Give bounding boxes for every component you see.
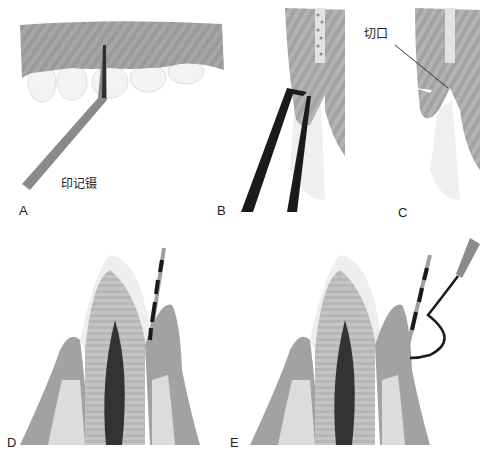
panel-letter-a: A	[19, 204, 28, 217]
tooth-probe-cross-section-d	[0, 230, 245, 464]
panel-letter-c: C	[398, 206, 407, 219]
annotation-marking-forceps: 印记镊	[61, 178, 97, 190]
panel-d: D	[0, 230, 245, 464]
periodontal-probe	[408, 255, 430, 345]
panel-c: 切口 C	[360, 0, 489, 225]
panel-letter-d: D	[7, 436, 16, 449]
tooth-root	[430, 100, 460, 200]
panel-letter-b: B	[217, 204, 226, 217]
gingiva-teeth-illustration	[0, 0, 240, 225]
tooth-probe-explorer-cross-section-e	[230, 230, 489, 464]
bone	[445, 8, 455, 63]
panel-letter-e: E	[230, 436, 239, 449]
panel-a: 印记镊 A	[0, 0, 240, 225]
panel-b: B	[215, 0, 345, 225]
annotation-incision: 切口	[364, 28, 388, 40]
panel-e: E	[230, 230, 489, 464]
pocket-cross-section-b	[215, 0, 345, 225]
